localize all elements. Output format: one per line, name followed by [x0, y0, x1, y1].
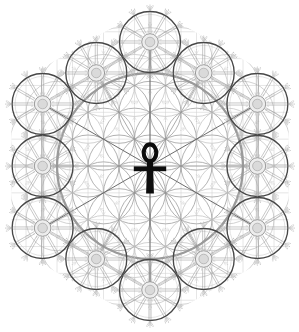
burst-dot: [185, 226, 186, 227]
burst-dot: [74, 184, 75, 185]
burst-dot: [64, 240, 65, 241]
burst-dot: [277, 257, 278, 258]
burst-dot: [275, 133, 276, 134]
burst-dot: [238, 133, 239, 134]
burst-dot: [21, 257, 22, 258]
burst-dot: [63, 195, 64, 196]
burst-dot: [287, 186, 288, 187]
ghost-dot: [211, 183, 212, 184]
burst-dot: [24, 135, 25, 136]
burst-dot: [224, 119, 225, 120]
burst-dot: [93, 222, 94, 223]
burst-dot: [290, 150, 291, 151]
burst-dot: [233, 93, 234, 94]
burst-dot: [152, 78, 153, 79]
wheel-hub-inner: [253, 161, 263, 171]
ghost-dot: [242, 148, 243, 149]
ghost-dot: [103, 210, 104, 211]
burst-dot: [225, 85, 226, 86]
burst-dot: [165, 9, 166, 10]
burst-dot: [59, 72, 60, 73]
burst-dot: [61, 197, 62, 198]
burst-dot: [294, 165, 295, 166]
burst-dot: [12, 248, 13, 249]
burst-dot: [236, 198, 237, 199]
burst-dot: [126, 52, 127, 53]
burst-dot: [63, 257, 64, 258]
burst-dot: [235, 240, 236, 241]
burst-dot: [74, 246, 75, 247]
burst-dot: [275, 195, 276, 196]
burst-dot: [287, 124, 288, 125]
burst-dot: [173, 238, 174, 239]
burst-dot: [74, 209, 75, 210]
burst-dot: [5, 165, 6, 166]
burst-dot: [75, 212, 76, 213]
burst-dot: [58, 198, 59, 199]
burst-dot: [111, 105, 112, 106]
burst-dot: [294, 227, 295, 228]
burst-dot: [235, 54, 236, 55]
ghost-dot: [196, 121, 197, 122]
burst-dot: [9, 150, 10, 151]
burst-dot: [129, 57, 130, 58]
burst-dot: [225, 184, 226, 185]
burst-dot: [227, 207, 228, 208]
burst-dot: [277, 133, 278, 134]
burst-dot: [200, 222, 201, 223]
burst-dot: [117, 271, 118, 272]
burst-dot: [39, 264, 40, 265]
burst-dot: [224, 88, 225, 89]
burst-dot: [241, 260, 242, 261]
burst-dot: [289, 85, 290, 86]
burst-dot: [166, 72, 167, 73]
burst-dot: [149, 326, 150, 327]
burst-dot: [120, 21, 121, 22]
burst-dot: [260, 191, 261, 192]
burst-dot: [290, 88, 291, 89]
wheel-hub-inner: [145, 285, 155, 295]
ghost-dot: [274, 237, 275, 238]
burst-dot: [171, 277, 172, 278]
ghost-dot: [119, 130, 120, 131]
burst-dot: [93, 109, 94, 110]
burst-dot: [39, 67, 40, 68]
ghost-dot: [181, 255, 182, 256]
burst-dot: [182, 102, 183, 103]
ghost-dot: [103, 282, 104, 283]
burst-dot: [63, 57, 64, 58]
wheel-hub-inner: [253, 223, 263, 233]
ghost-dot: [196, 174, 197, 175]
ankh-shaft: [146, 161, 154, 194]
burst-dot: [146, 78, 147, 79]
burst-dot: [289, 147, 290, 148]
burst-dot: [186, 286, 187, 287]
burst-dot: [132, 69, 133, 70]
burst-dot: [114, 40, 115, 41]
burst-dot: [96, 35, 97, 36]
burst-dot: [170, 319, 171, 320]
burst-dot: [10, 246, 11, 247]
burst-dot: [6, 168, 7, 169]
burst-dot: [39, 191, 40, 192]
burst-dot: [257, 128, 258, 129]
burst-dot: [80, 291, 81, 292]
burst-dot: [42, 202, 43, 203]
burst-dot: [129, 243, 130, 244]
burst-dot: [64, 91, 65, 92]
burst-dot: [224, 43, 225, 44]
burst-dot: [75, 288, 76, 289]
burst-dot: [61, 259, 62, 260]
burst-dot: [260, 67, 261, 68]
burst-dot: [257, 66, 258, 67]
burst-dot: [241, 71, 242, 72]
burst-dot: [116, 288, 117, 289]
burst-dot: [63, 133, 64, 134]
ghost-dot: [25, 94, 26, 95]
burst-dot: [75, 88, 76, 89]
burst-dot: [287, 83, 288, 84]
burst-dot: [185, 104, 186, 105]
burst-dot: [203, 35, 204, 36]
burst-dot: [75, 102, 76, 103]
burst-dot: [239, 69, 240, 70]
